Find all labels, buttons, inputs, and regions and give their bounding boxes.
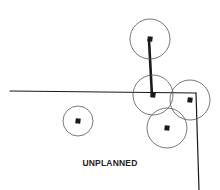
node-isolated	[63, 106, 93, 136]
building-marker-icon	[164, 125, 170, 131]
coverage-nodes	[63, 19, 210, 148]
building-marker-icon	[147, 36, 153, 42]
building-marker-icon	[150, 92, 156, 98]
building-marker-icon	[75, 118, 81, 124]
thick-connector	[149, 40, 152, 96]
vertical-road	[196, 93, 199, 190]
node-right	[170, 80, 210, 120]
horizontal-road	[10, 91, 196, 93]
diagram-caption: UNPLANNED	[0, 158, 220, 168]
node-center	[133, 75, 173, 115]
node-bottom	[147, 108, 187, 148]
building-marker-icon	[187, 97, 193, 103]
